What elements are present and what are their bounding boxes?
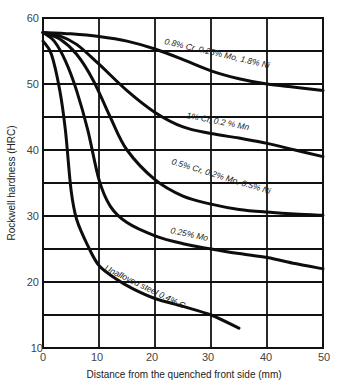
y-tick-30: 30 (27, 210, 39, 222)
hardness-chart: 60 50 40 30 20 10 0 10 20 30 40 50 Dista… (0, 0, 340, 384)
y-axis-ticks: 60 50 40 30 20 10 (27, 12, 43, 354)
x-tick-0: 0 (40, 351, 46, 363)
y-tick-60: 60 (27, 12, 39, 24)
y-tick-20: 20 (27, 276, 39, 288)
curve-label-mo: 0.25% Mo (170, 225, 210, 243)
curve-label-cr-mo-ni-low: 0.5% Cr, 0.2% Mo, 0.5% Ni (170, 156, 272, 196)
curve-label-unalloyed: Unalloyed steel 0.4% C (103, 263, 188, 311)
curve-label-cr-mo-ni: 0.8% Cr, 0.25% Mo, 1.8% Ni (164, 36, 272, 70)
x-tick-10: 10 (91, 351, 103, 363)
curves (43, 33, 323, 329)
y-axis-label: Rockwell hardness (HRC) (6, 125, 17, 240)
x-tick-40: 40 (260, 351, 272, 363)
x-axis-label: Distance from the quenched front side (m… (86, 369, 281, 380)
x-axis-ticks: 0 10 20 30 40 50 (40, 351, 330, 363)
x-tick-30: 30 (202, 351, 214, 363)
x-tick-50: 50 (318, 351, 330, 363)
y-tick-40: 40 (27, 144, 39, 156)
x-tick-20: 20 (146, 351, 158, 363)
y-tick-50: 50 (27, 78, 39, 90)
